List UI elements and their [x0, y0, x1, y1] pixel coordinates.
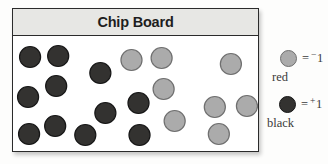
black-chip: [48, 46, 69, 67]
black-number: 1: [316, 97, 322, 111]
red-chip: [153, 79, 174, 100]
red-chip: [151, 48, 172, 69]
chip-board: Chip Board: [12, 8, 259, 152]
chip-board-title: Chip Board: [97, 14, 173, 30]
red-chip: [220, 54, 241, 75]
red-sign-superscript: −: [311, 50, 316, 60]
black-chip: [128, 93, 149, 114]
black-chip: [19, 124, 40, 145]
black-chip: [129, 125, 150, 146]
chip-board-header: Chip Board: [13, 9, 258, 36]
red-equals: =: [302, 51, 309, 65]
red-chip-value: =−1: [302, 51, 323, 66]
black-sign-superscript: +: [310, 96, 315, 106]
legend-black-row: =+1: [267, 96, 322, 113]
black-chip-icon: [279, 96, 296, 113]
chip-board-area: [13, 36, 258, 150]
black-chip: [90, 63, 111, 84]
red-chip: [236, 96, 257, 117]
black-chip: [45, 116, 66, 137]
red-chip: [121, 50, 142, 71]
black-chip: [75, 125, 96, 146]
black-chip: [20, 47, 41, 68]
black-equals: =: [301, 97, 308, 111]
legend-item-red: =−1 red: [272, 50, 323, 85]
black-chip: [18, 87, 39, 108]
red-chip: [164, 111, 185, 132]
red-number: 1: [317, 51, 323, 65]
chip-board-figure: Chip Board =−1 red =+1 black: [0, 0, 328, 164]
chip-board-canvas: [13, 36, 258, 150]
red-chip: [204, 97, 225, 118]
black-chip: [95, 103, 116, 124]
legend-item-black: =+1 black: [267, 96, 322, 131]
legend-red-row: =−1: [272, 50, 323, 67]
red-chip-icon: [280, 50, 297, 67]
red-chip-label: red: [272, 70, 323, 85]
black-chip: [46, 76, 67, 97]
black-chip-label: black: [267, 116, 322, 131]
black-chip-value: =+1: [301, 97, 322, 112]
red-chip: [208, 124, 229, 145]
